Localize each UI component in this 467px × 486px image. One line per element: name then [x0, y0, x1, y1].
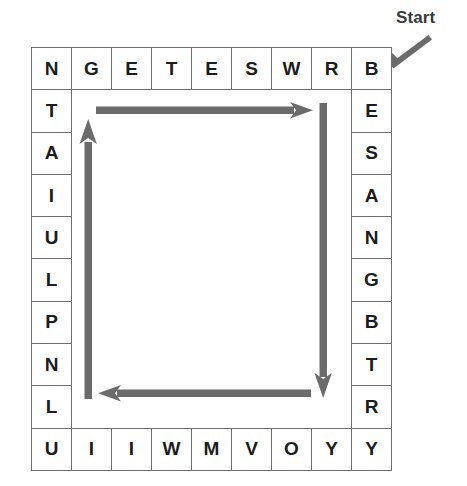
grid-cell: L — [32, 259, 72, 301]
grid-cell: B — [352, 48, 392, 90]
grid-cell-empty — [232, 174, 272, 216]
grid-cell: Y — [352, 428, 392, 470]
grid-cell: G — [352, 259, 392, 301]
grid-cell-empty — [72, 344, 112, 386]
grid-cell: E — [112, 48, 152, 90]
grid-cell-empty — [312, 90, 352, 132]
grid-cell-empty — [232, 217, 272, 259]
grid-cell: P — [32, 301, 72, 343]
grid-cell-empty — [152, 217, 192, 259]
grid-cell: T — [32, 90, 72, 132]
grid-cell-empty — [112, 386, 152, 428]
grid-cell-empty — [72, 217, 112, 259]
grid-cell-empty — [272, 344, 312, 386]
grid-cell: N — [32, 344, 72, 386]
grid-cell-empty — [232, 301, 272, 343]
grid-cell: A — [32, 132, 72, 174]
grid-cell-empty — [272, 132, 312, 174]
grid-cell-empty — [312, 344, 352, 386]
grid-cell: E — [352, 90, 392, 132]
grid-cell: U — [32, 217, 72, 259]
grid-cell-empty — [72, 90, 112, 132]
grid-cell-empty — [192, 132, 232, 174]
grid-cell-empty — [152, 90, 192, 132]
grid-cell: N — [352, 217, 392, 259]
grid-cell: R — [312, 48, 352, 90]
grid-cell-empty — [152, 174, 192, 216]
grid-cell: W — [152, 428, 192, 470]
grid-cell-empty — [232, 90, 272, 132]
grid-cell-empty — [232, 344, 272, 386]
grid-cell: B — [352, 301, 392, 343]
letter-grid: N G E T E S W R B T E — [31, 47, 392, 471]
grid-cell: S — [232, 48, 272, 90]
grid-cell-empty — [192, 90, 232, 132]
grid-cell: E — [192, 48, 232, 90]
grid-cell-empty — [112, 174, 152, 216]
grid-cell: L — [32, 386, 72, 428]
grid-cell: O — [272, 428, 312, 470]
grid-cell: G — [72, 48, 112, 90]
grid-cell-empty — [192, 259, 232, 301]
grid-cell-empty — [152, 301, 192, 343]
table-row: N T — [32, 344, 392, 386]
grid-cell-empty — [152, 259, 192, 301]
grid-cell: N — [32, 48, 72, 90]
grid-cell-empty — [272, 174, 312, 216]
grid-cell-empty — [112, 301, 152, 343]
grid-cell-empty — [272, 386, 312, 428]
grid-cell: V — [232, 428, 272, 470]
table-row: I A — [32, 174, 392, 216]
grid-cell-empty — [312, 259, 352, 301]
table-row: U N — [32, 217, 392, 259]
grid-cell: A — [352, 174, 392, 216]
grid-cell-empty — [112, 90, 152, 132]
grid-cell-empty — [192, 344, 232, 386]
grid-cell-empty — [232, 132, 272, 174]
grid-cell-empty — [72, 132, 112, 174]
grid-cell-empty — [272, 259, 312, 301]
grid-cell-empty — [72, 259, 112, 301]
table-row: L G — [32, 259, 392, 301]
grid-cell-empty — [112, 217, 152, 259]
grid-cell-empty — [112, 132, 152, 174]
grid-cell: S — [352, 132, 392, 174]
grid-cell-empty — [192, 386, 232, 428]
grid-cell: R — [352, 386, 392, 428]
grid-cell-empty — [152, 132, 192, 174]
puzzle-diagram: Start N G E T E S W R B T — [0, 0, 467, 486]
grid-cell-empty — [312, 132, 352, 174]
grid-cell-empty — [312, 174, 352, 216]
grid-cell: T — [152, 48, 192, 90]
grid-cell-empty — [312, 301, 352, 343]
grid-cell-empty — [272, 90, 312, 132]
grid-cell: Y — [312, 428, 352, 470]
grid-cell: W — [272, 48, 312, 90]
table-row: N G E T E S W R B — [32, 48, 392, 90]
grid-cell-empty — [192, 301, 232, 343]
grid-cell: T — [352, 344, 392, 386]
table-row: P B — [32, 301, 392, 343]
grid-cell-empty — [232, 386, 272, 428]
grid-cell-empty — [312, 217, 352, 259]
grid-cell-empty — [192, 174, 232, 216]
table-row: U I I W M V O Y Y — [32, 428, 392, 470]
grid-cell-empty — [232, 259, 272, 301]
grid-cell: I — [32, 174, 72, 216]
grid-cell: M — [192, 428, 232, 470]
grid-cell: U — [32, 428, 72, 470]
grid-cell-empty — [112, 259, 152, 301]
grid-cell-empty — [72, 174, 112, 216]
grid-cell: I — [112, 428, 152, 470]
grid-cell-empty — [192, 217, 232, 259]
grid-cell-empty — [152, 344, 192, 386]
grid-cell: I — [72, 428, 112, 470]
grid-cell-empty — [112, 344, 152, 386]
grid-cell-empty — [272, 301, 312, 343]
table-row: L R — [32, 386, 392, 428]
table-row: T E — [32, 90, 392, 132]
table-row: A S — [32, 132, 392, 174]
grid-cell-empty — [312, 386, 352, 428]
grid-cell-empty — [272, 217, 312, 259]
grid-cell-empty — [72, 386, 112, 428]
